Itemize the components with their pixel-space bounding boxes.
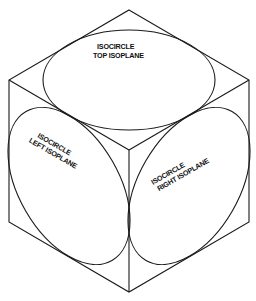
isocircle-left: ISOCIRCLE LEFT ISOPLANE [0, 87, 155, 286]
isometric-cube-diagram: ISOCIRCLE TOP ISOPLANE ISOCIRCLE LEFT IS… [0, 0, 256, 301]
isocircle-top-label-line1: ISOCIRCLE [97, 42, 135, 51]
isocircle-top-label-line2: TOP ISOPLANE [93, 51, 144, 60]
isocircle-left-ellipse [0, 87, 155, 286]
isocircle-right-ellipse [103, 87, 256, 286]
isocircle-right: ISOCIRCLE RIGHT ISOPLANE [103, 87, 256, 286]
